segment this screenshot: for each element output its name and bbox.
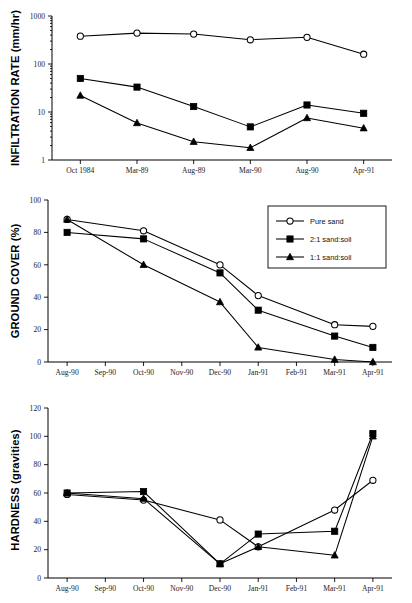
chart-legend: Pure sand2:1 sand:soil1:1 sand:soil [268, 206, 386, 268]
legend-marker-open-circle [287, 218, 293, 224]
data-point-filled-triangle [140, 261, 147, 267]
y-tick-label: 40 [33, 517, 41, 526]
data-point-filled-square [255, 307, 261, 313]
series-line-1-1-sand-soil [80, 96, 363, 148]
data-point-open-circle [332, 322, 338, 328]
data-point-filled-square [255, 531, 261, 537]
series-line-2-1-sand-soil [67, 434, 373, 564]
y-tick-label: 1000 [30, 12, 45, 21]
x-tick-label: Jan-91 [248, 584, 268, 593]
plot-axes [52, 16, 392, 160]
x-tick-label: Aug-90 [295, 166, 318, 175]
data-point-filled-square [332, 528, 338, 534]
data-point-filled-square [191, 103, 197, 109]
data-point-filled-square [247, 124, 253, 130]
chart-panel-ground-cover: 020406080100Aug-90Sep-90Oct-90Nov-90Dec-… [0, 186, 412, 386]
y-tick-label: 60 [33, 261, 41, 270]
data-point-filled-square [140, 488, 146, 494]
x-tick-label: Feb-91 [286, 368, 308, 377]
data-point-filled-square [64, 229, 70, 235]
x-tick-label: Oct-90 [133, 368, 154, 377]
data-point-filled-square [140, 236, 146, 242]
data-point-filled-triangle [217, 298, 224, 304]
data-point-open-circle [255, 292, 261, 298]
x-tick-label: Mar-91 [323, 584, 346, 593]
x-tick-label: Sep-90 [95, 584, 117, 593]
x-tick-label: Nov-90 [170, 368, 193, 377]
series-line-1-1-sand-soil [67, 436, 373, 564]
x-tick-label: Apr-91 [353, 166, 375, 175]
data-point-filled-square [370, 344, 376, 350]
series-line-pure-sand [80, 33, 363, 54]
data-point-open-circle [370, 477, 376, 483]
y-tick-label: 100 [34, 60, 46, 69]
x-tick-label: Jan-91 [248, 368, 268, 377]
series-line-2-1-sand-soil [80, 78, 363, 126]
x-tick-label: Oct 1984 [66, 166, 94, 175]
data-point-filled-triangle [77, 92, 84, 98]
data-point-open-circle [134, 30, 140, 36]
y-tick-label: 80 [33, 460, 41, 469]
data-point-filled-square [332, 333, 338, 339]
x-tick-label: Aug-90 [56, 584, 79, 593]
chart-hardness: 020406080100120Aug-90Sep-90Oct-90Nov-90D… [0, 392, 412, 603]
data-point-open-circle [217, 517, 223, 523]
data-point-filled-triangle [134, 119, 141, 125]
y-tick-label: 120 [30, 404, 42, 413]
x-tick-label: Sep-90 [95, 368, 117, 377]
y-tick-label: 100 [30, 432, 42, 441]
data-point-open-circle [304, 34, 310, 40]
x-tick-label: Dec-90 [209, 368, 232, 377]
y-axis-title: GROUND COVER (%) [9, 223, 21, 338]
y-tick-label: 1 [41, 156, 45, 165]
data-point-open-circle [370, 323, 376, 329]
chart-panel-hardness: 020406080100120Aug-90Sep-90Oct-90Nov-90D… [0, 392, 412, 603]
x-tick-label: Nov-90 [170, 584, 193, 593]
data-point-open-circle [247, 37, 253, 43]
x-tick-label: Mar-90 [239, 166, 262, 175]
chart-panel-infiltration: 1101001000Oct 1984Mar-89Aug-89Mar-90Aug-… [0, 0, 412, 192]
x-tick-label: Aug-89 [182, 166, 205, 175]
y-tick-label: 0 [37, 574, 41, 583]
data-point-filled-square [304, 102, 310, 108]
data-point-filled-square [217, 270, 223, 276]
data-point-filled-square [77, 75, 83, 81]
data-point-filled-triangle [304, 114, 311, 120]
data-point-open-circle [361, 51, 367, 57]
x-tick-label: Mar-91 [323, 368, 346, 377]
y-tick-label: 40 [33, 293, 41, 302]
x-tick-label: Apr-91 [362, 584, 384, 593]
y-axis-title: INFILTRATION RATE (mm/hr) [9, 10, 21, 166]
chart-ground-cover: 020406080100Aug-90Sep-90Oct-90Nov-90Dec-… [0, 186, 412, 386]
legend-entry-label: 1:1 sand:soil [310, 253, 352, 262]
data-point-filled-square [134, 84, 140, 90]
legend-marker-filled-square [287, 236, 293, 242]
x-tick-label: Apr-91 [362, 368, 384, 377]
x-tick-label: Aug-90 [56, 368, 79, 377]
y-tick-label: 80 [33, 228, 41, 237]
y-tick-label: 0 [37, 358, 41, 367]
y-axis-title: HARDNESS (gravities) [9, 429, 21, 551]
x-tick-label: Feb-91 [286, 584, 308, 593]
x-tick-label: Oct-90 [133, 584, 154, 593]
y-tick-label: 100 [30, 196, 42, 205]
data-point-open-circle [217, 262, 223, 268]
plot-axes [48, 408, 392, 578]
y-tick-label: 60 [33, 489, 41, 498]
data-point-open-circle [140, 228, 146, 234]
series-line-pure-sand [67, 480, 373, 547]
legend-entry-label: Pure sand [310, 217, 344, 226]
data-point-filled-square [361, 110, 367, 116]
y-tick-label: 10 [37, 108, 45, 117]
x-tick-label: Mar-89 [126, 166, 149, 175]
x-tick-label: Dec-90 [209, 584, 232, 593]
y-tick-label: 20 [33, 545, 41, 554]
data-point-open-circle [332, 507, 338, 513]
figure-root: 1101001000Oct 1984Mar-89Aug-89Mar-90Aug-… [0, 0, 412, 603]
y-tick-label: 20 [33, 325, 41, 334]
data-point-open-circle [191, 31, 197, 37]
data-point-open-circle [77, 33, 83, 39]
legend-entry-label: 2:1 sand:soil [310, 235, 352, 244]
chart-infiltration: 1101001000Oct 1984Mar-89Aug-89Mar-90Aug-… [0, 0, 412, 192]
